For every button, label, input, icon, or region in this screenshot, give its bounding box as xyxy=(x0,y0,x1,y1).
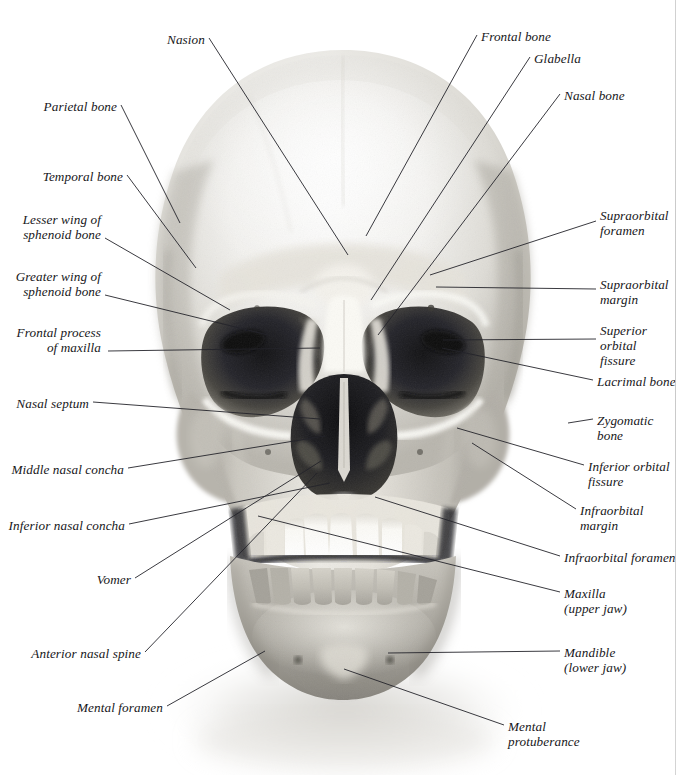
label-frontal-bone: Frontal bone xyxy=(481,29,551,44)
figure-page: NasionFrontal boneGlabellaNasal bonePari… xyxy=(0,0,686,775)
label-middle-nasal-concha: Middle nasal concha xyxy=(11,462,124,477)
page-margin-rule xyxy=(675,0,676,775)
label-temporal-bone: Temporal bone xyxy=(43,169,123,184)
label-supraorbital-margin: Supraorbital margin xyxy=(600,277,669,307)
label-maxilla: Maxilla (upper jaw) xyxy=(564,586,627,616)
label-mental-protuberance: Mental protuberance xyxy=(508,719,580,749)
label-nasal-bone: Nasal bone xyxy=(564,88,625,103)
label-mental-foramen: Mental foramen xyxy=(77,700,163,715)
label-zygomatic-bone: Zygomatic bone xyxy=(597,413,654,443)
label-nasal-septum: Nasal septum xyxy=(16,396,89,411)
label-anterior-nasal-spine: Anterior nasal spine xyxy=(31,646,141,661)
label-vomer: Vomer xyxy=(97,572,131,587)
label-inferior-nasal-concha: Inferior nasal concha xyxy=(9,518,125,533)
label-infraorbital-foramen: Infraorbital foramen xyxy=(564,550,676,565)
label-nasion: Nasion xyxy=(167,32,205,47)
label-parietal-bone: Parietal bone xyxy=(44,99,117,114)
label-infraorbital-margin: Infraorbital margin xyxy=(580,503,643,533)
label-inferior-orbital-fissure: Inferior orbital fissure xyxy=(588,459,670,489)
label-frontal-process-maxilla: Frontal process of maxilla xyxy=(17,325,101,355)
label-glabella: Glabella xyxy=(534,51,581,66)
label-lacrimal-bone: Lacrimal bone xyxy=(597,374,676,389)
label-superior-orbital-fissure: Superior orbital fissure xyxy=(600,323,647,369)
label-greater-wing-sphenoid: Greater wing of sphenoid bone xyxy=(16,269,101,299)
label-lesser-wing-sphenoid: Lesser wing of sphenoid bone xyxy=(23,212,101,242)
label-supraorbital-foramen: Supraorbital foramen xyxy=(600,208,669,238)
label-mandible: Mandible (lower jaw) xyxy=(564,645,626,675)
